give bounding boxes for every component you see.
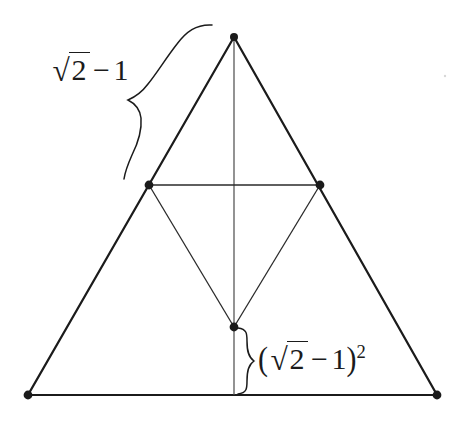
apex-point (230, 33, 238, 41)
bottom-left-point (24, 391, 33, 400)
subtrahend-value: 1 (114, 53, 129, 86)
radical-sign-icon-inner: √ (270, 343, 287, 375)
right-midpoint-point (316, 181, 325, 190)
vertical-brace-icon (238, 328, 254, 394)
radicand-value-inner: 2 (287, 341, 308, 374)
figure-canvas: √2 −1 ( √2 −1)2 (0, 0, 468, 426)
exponent-value: 2 (357, 341, 366, 362)
outer-triangle (28, 37, 437, 395)
inner-triangle-left-leg (149, 185, 234, 327)
inner-triangle-right-leg (234, 185, 320, 327)
slanted-brace-icon (124, 25, 212, 179)
close-paren: ) (347, 342, 357, 376)
inner-height-label: ( √2 −1)2 (258, 341, 366, 374)
radicand-value: 2 (69, 52, 90, 85)
subtrahend-value-inner: 1 (332, 342, 347, 375)
inner-bottom-point (230, 323, 239, 332)
left-midpoint-point (145, 181, 154, 190)
sqrt-expression: √2 (50, 52, 90, 85)
radical-sign-icon: √ (52, 54, 69, 86)
stray-speck (444, 75, 446, 77)
open-paren: ( (258, 342, 268, 376)
side-length-label: √2 −1 (50, 52, 129, 85)
bottom-right-point (433, 391, 442, 400)
minus-sign-inner: − (308, 342, 332, 375)
minus-sign: − (90, 53, 114, 86)
sqrt-expression-inner: √2 (268, 341, 308, 374)
